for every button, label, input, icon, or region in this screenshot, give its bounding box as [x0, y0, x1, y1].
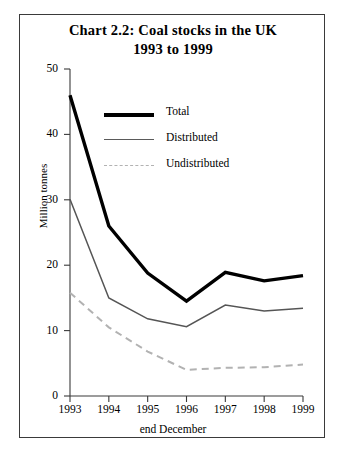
x-tick-label-1999: 1999 [280, 404, 326, 416]
legend-label-distributed: Distributed [166, 131, 218, 143]
series-line-undistributed [70, 293, 303, 370]
y-tick-label-0: 0 [28, 390, 58, 402]
legend-swatch-distributed-icon [104, 139, 154, 140]
chart-legend: Total Distributed Undistributed [104, 103, 289, 181]
y-tick-label-40: 40 [28, 128, 58, 140]
chart-frame: Chart 2.2: Coal stocks in the UK 1993 to… [19, 14, 325, 438]
x-axis-title: end December [20, 423, 326, 435]
legend-swatch-undistributed-icon [104, 165, 154, 166]
x-axis-ticks [70, 396, 303, 402]
y-tick-label-10: 10 [28, 325, 58, 337]
legend-label-undistributed: Undistributed [166, 157, 229, 169]
legend-item-total: Total [104, 103, 289, 129]
legend-label-total: Total [166, 105, 189, 117]
legend-swatch-total-icon [104, 113, 154, 117]
legend-item-distributed: Distributed [104, 129, 289, 155]
y-tick-label-50: 50 [28, 63, 58, 75]
legend-item-undistributed: Undistributed [104, 155, 289, 181]
y-axis-title: Million tonnes [37, 141, 49, 251]
y-tick-label-20: 20 [28, 259, 58, 271]
line-chart-svg [20, 15, 326, 439]
plot-area: 50 40 30 20 10 0 1993 1994 1995 1996 199… [20, 15, 326, 439]
y-axis-ticks [64, 69, 70, 396]
